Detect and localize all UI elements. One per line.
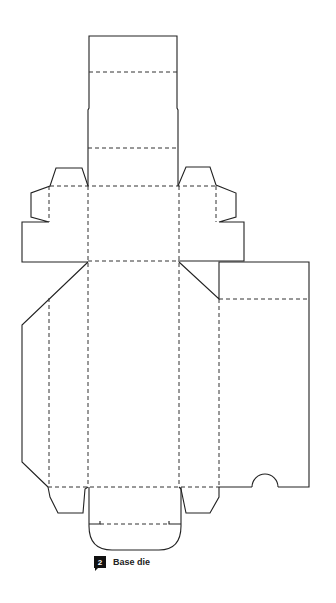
figure-caption: 2 Base die xyxy=(94,556,150,568)
bottom-right-tab xyxy=(179,487,219,513)
bottom-left-tab xyxy=(48,487,88,513)
thumb-notch xyxy=(252,474,278,487)
right-glue-panel xyxy=(179,262,309,487)
top-flap-outline xyxy=(88,36,178,186)
cut-lines xyxy=(22,36,309,550)
bottom-tuck-flap xyxy=(89,487,181,550)
figure-number-badge: 2 xyxy=(94,556,106,568)
left-side-panel xyxy=(22,262,88,487)
tuck-tick-left xyxy=(89,521,100,524)
right-dust-flap xyxy=(178,167,244,261)
base-die-diagram xyxy=(0,0,336,603)
figure-caption-label: Base die xyxy=(113,557,150,567)
tuck-tick-right xyxy=(169,521,181,524)
left-dust-flap xyxy=(22,168,88,262)
